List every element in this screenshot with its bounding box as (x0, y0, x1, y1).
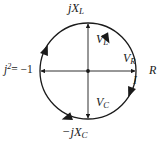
label-jxc-sub: C (82, 130, 88, 140)
circle-direction-marker-left (40, 43, 52, 56)
label-resistance-axis: R (149, 64, 156, 76)
label-inductive-reactance: jXL (68, 2, 84, 16)
label-voltage-inductor: VL (96, 33, 108, 47)
label-voltage-resistor: VR (123, 52, 136, 66)
label-jsq-eq: = −1 (11, 63, 33, 75)
label-jxl-main: jX (68, 1, 79, 15)
label-vl-sub: L (103, 37, 108, 47)
label-jxl-sub: L (79, 6, 84, 16)
label-voltage-capacitor: VC (96, 96, 109, 110)
label-r-main: R (149, 63, 156, 77)
label-capacitive-reactance: −jXC (62, 126, 88, 140)
circle-direction-marker-right (124, 86, 136, 99)
label-jxc-main: −jX (62, 125, 82, 139)
label-i-main: I (133, 74, 137, 86)
origin-point (86, 69, 90, 73)
label-j-squared: j2= −1 (4, 63, 33, 75)
label-vr-sub: R (130, 56, 135, 66)
label-vc-sub: C (103, 100, 109, 110)
label-current: I (133, 75, 137, 87)
impedance-circle-diagram: jXL VL VR R I j2= −1 VC −jXC (0, 0, 163, 146)
